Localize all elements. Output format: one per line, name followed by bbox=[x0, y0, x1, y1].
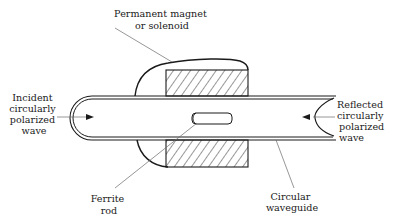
magnet-label: Permanent magnet or solenoid bbox=[114, 8, 210, 31]
incident-wave-arrow bbox=[57, 114, 94, 120]
reflected-wave-label: Reflected circularly polarized wave bbox=[337, 99, 387, 143]
reflected-wave-arrow bbox=[302, 98, 335, 136]
magnet-cap-bottom bbox=[137, 140, 168, 167]
magnet-leader-line bbox=[115, 28, 172, 62]
ferrite-rod bbox=[192, 113, 232, 124]
incident-wave-label: Incident circularly polarized wave bbox=[9, 92, 59, 136]
magnet-block-top bbox=[166, 70, 248, 96]
waveguide-label: Circular waveguide bbox=[266, 191, 319, 213]
waveguide-leader-line bbox=[276, 140, 294, 188]
ferrite-device-diagram: Permanent magnet or solenoid Incident ci… bbox=[0, 0, 395, 223]
ferrite-rod-label: Ferrite rod bbox=[91, 193, 128, 216]
magnet-block-bottom bbox=[166, 140, 248, 167]
